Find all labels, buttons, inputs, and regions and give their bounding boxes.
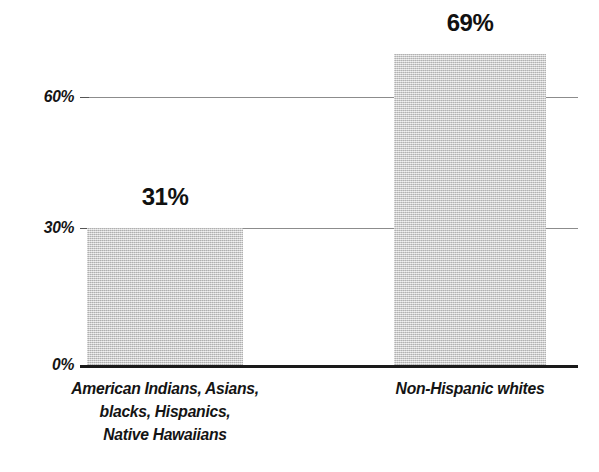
bar-american-indians-asians-blacks-hispanics-native-hawaiians xyxy=(87,228,243,366)
bar-chart: 60% 30% 0% 31% 69% American Indians, Asi… xyxy=(0,0,599,472)
y-axis-tick-label-60: 60% xyxy=(6,87,74,107)
x-axis-category-label-1-line-1: Non-Hispanic whites xyxy=(383,377,558,400)
x-axis-category-label-0-line-1: American Indians, Asians, xyxy=(54,377,276,400)
y-axis-tick-label-0: 0% xyxy=(6,355,74,375)
x-axis-category-label-1: Non-Hispanic whites xyxy=(378,377,562,400)
plot-area: 60% 30% 0% 31% 69% American Indians, Asi… xyxy=(0,0,599,472)
bar-value-label-1: 69% xyxy=(394,9,546,37)
x-axis-baseline xyxy=(80,365,578,368)
x-axis-category-label-0-line-3: Native Hawaiians xyxy=(54,423,276,446)
gridline-tick-60 xyxy=(80,97,89,98)
x-axis-category-label-0-line-2: blacks, Hispanics, xyxy=(54,400,276,423)
x-axis-category-label-0: American Indians, Asians, blacks, Hispan… xyxy=(48,377,282,446)
bar-non-hispanic-whites xyxy=(394,54,546,366)
bar-value-label-0: 31% xyxy=(87,183,243,211)
y-axis-tick-label-30: 30% xyxy=(6,218,74,238)
